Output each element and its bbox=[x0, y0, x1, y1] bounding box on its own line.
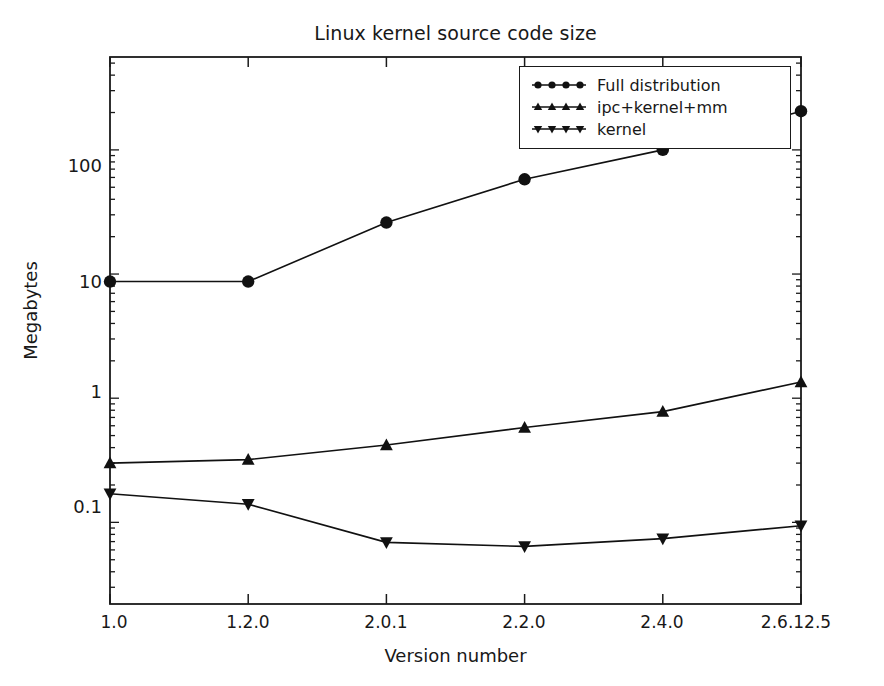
legend-label: kernel bbox=[597, 120, 646, 139]
series-ipc-kernel-mm bbox=[104, 375, 808, 468]
data-point-marker bbox=[380, 216, 392, 228]
data-point-marker bbox=[795, 375, 808, 387]
series-kernel bbox=[104, 489, 808, 553]
data-point-marker bbox=[518, 541, 531, 553]
chart-legend: Full distribution ipc+kernel+mm kernel bbox=[519, 66, 791, 149]
data-point-marker bbox=[242, 275, 254, 287]
legend-item-full-distribution: Full distribution bbox=[530, 74, 780, 96]
legend-label: ipc+kernel+mm bbox=[597, 98, 728, 117]
legend-label: Full distribution bbox=[597, 76, 721, 95]
chart-figure: Linux kernel source code size Megabytes … bbox=[0, 0, 884, 686]
legend-item-kernel: kernel bbox=[530, 118, 780, 140]
circle-marker-icon bbox=[530, 77, 588, 93]
data-point-marker bbox=[104, 275, 116, 287]
data-point-marker bbox=[518, 173, 530, 185]
triangle-down-marker-icon bbox=[530, 121, 588, 137]
legend-item-ipc-kernel-mm: ipc+kernel+mm bbox=[530, 96, 780, 118]
triangle-up-marker-icon bbox=[530, 99, 588, 115]
data-point-marker bbox=[795, 105, 807, 117]
data-series-layer bbox=[104, 105, 808, 553]
